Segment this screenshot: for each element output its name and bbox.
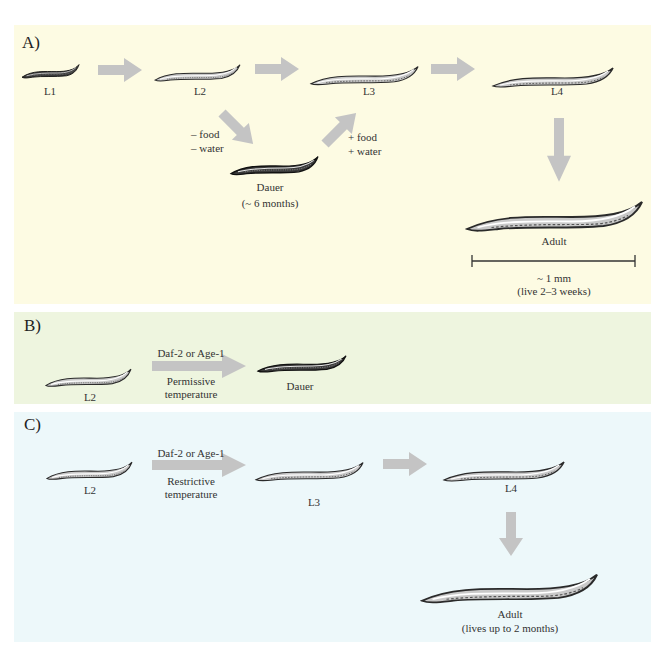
panel-c-arrow-mutation: Daf-2 or Age-1 <box>157 446 224 461</box>
stage-label-l1: L1 <box>44 84 56 99</box>
worm-adult <box>467 202 642 231</box>
worm-c-l3 <box>256 463 363 481</box>
worm-b-dauer <box>258 356 346 372</box>
panel-b-label: B) <box>24 316 41 336</box>
stage-label-adult: Adult <box>541 234 566 249</box>
panel-c-adult-lifespan: (lives up to 2 months) <box>462 621 559 636</box>
panel-a-label: A) <box>22 33 40 53</box>
panel-c-stage-adult: Adult <box>497 607 522 622</box>
worm-l2 <box>155 65 240 81</box>
condition-plus-water: + water <box>348 144 381 159</box>
panel-b-stage-dauer: Dauer <box>287 379 314 394</box>
arrow-l1-to-l2 <box>98 58 142 82</box>
arrow-l2-to-l3 <box>255 57 299 81</box>
panel-c-label: C) <box>24 415 41 435</box>
stage-label-l3: L3 <box>363 84 375 99</box>
stage-label-l2: L2 <box>194 84 206 99</box>
arrow-c-l4-to-adult <box>499 512 523 556</box>
panel-b-arrow-mutation: Daf-2 or Age-1 <box>157 346 224 361</box>
stage-label-dauer: Dauer <box>257 180 284 195</box>
worm-b-l2 <box>46 369 131 386</box>
panel-c-condition-line2: temperature <box>165 487 218 502</box>
adult-lifespan: (live 2–3 weeks) <box>517 284 590 299</box>
scale-bar <box>472 255 635 267</box>
dauer-duration: (~ 6 months) <box>242 196 299 211</box>
panel-c-stage-l2: L2 <box>84 483 96 498</box>
arrow-l4-to-adult <box>547 118 571 182</box>
condition-minus-food: – food <box>191 127 219 142</box>
panel-b-stage-l2: L2 <box>84 390 96 405</box>
panel-b-condition-line2: temperature <box>165 387 218 402</box>
condition-plus-food: + food <box>348 130 377 145</box>
worm-c-adult <box>422 575 597 603</box>
worm-dauer <box>231 157 318 175</box>
panel-c-stage-l4: L4 <box>505 481 517 496</box>
arrow-c-l3-to-l4 <box>383 452 427 476</box>
diagram-drawing-layer <box>0 0 669 655</box>
worm-c-l2 <box>47 462 132 479</box>
panel-c-stage-l3: L3 <box>308 495 320 510</box>
worm-l1 <box>22 65 79 78</box>
worm-l3 <box>311 67 418 85</box>
arrow-l3-to-l4 <box>431 57 475 81</box>
stage-label-l4: L4 <box>551 84 563 99</box>
worm-c-l4 <box>444 462 564 481</box>
condition-minus-water: – water <box>191 141 224 156</box>
